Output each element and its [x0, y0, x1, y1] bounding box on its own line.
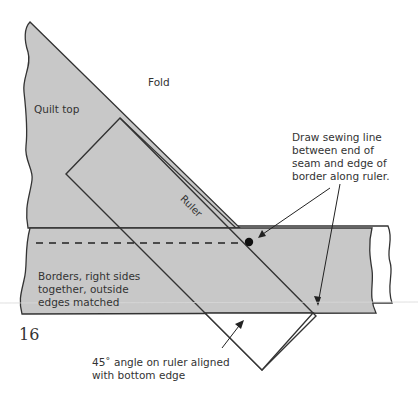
borders-note: Borders, right sides together, outside e…	[38, 270, 140, 309]
fold-label: Fold	[148, 76, 170, 89]
quilt-mitered-border-diagram	[0, 0, 418, 403]
angle-note: 45˚ angle on ruler aligned with bottom e…	[92, 356, 230, 382]
seam-end-dot	[245, 238, 253, 246]
page-number: 16	[19, 325, 39, 344]
quilt-top-fabric	[24, 22, 240, 228]
sewing-line-note: Draw sewing line between end of seam and…	[292, 131, 389, 183]
quilt-top-label: Quilt top	[34, 103, 79, 116]
